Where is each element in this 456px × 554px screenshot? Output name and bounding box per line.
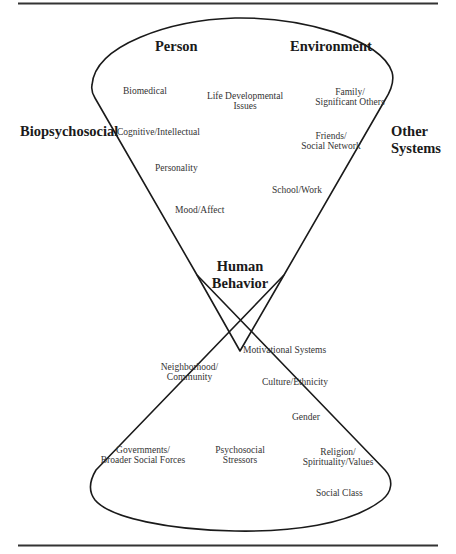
psychosocial-line2: Stressors	[210, 455, 270, 465]
religion-line1: Religion/	[298, 447, 378, 457]
governments-line2: Broader Social Forces	[98, 455, 188, 465]
other-systems-line1: Other	[391, 123, 441, 140]
environment-heading: Environment	[290, 38, 372, 55]
other-systems-label: Other Systems	[391, 123, 441, 157]
human-behavior-line1: Human	[210, 258, 270, 275]
governments-line1: Governments/	[98, 445, 188, 455]
social-class-label: Social Class	[316, 488, 363, 498]
life-developmental-line2: Issues	[195, 101, 295, 111]
person-heading: Person	[155, 38, 198, 55]
mood-affect-label: Mood/Affect	[175, 205, 224, 215]
gender-label: Gender	[292, 412, 320, 422]
friends-line2: Social Network	[286, 141, 376, 151]
psychosocial-line1: Psychosocial	[210, 445, 270, 455]
family-line2: Significant Others	[305, 97, 395, 107]
life-developmental-line1: Life Developmental	[195, 91, 295, 101]
governments-label: Governments/ Broader Social Forces	[98, 445, 188, 465]
other-systems-line2: Systems	[391, 140, 441, 157]
human-behavior-title: Human Behavior	[210, 258, 270, 292]
life-developmental-issues-label: Life Developmental Issues	[195, 91, 295, 111]
outer-boundary-top	[92, 18, 393, 351]
motivational-systems-label: Motivational Systems	[243, 345, 326, 355]
neighborhood-line1: Neighborhood/	[152, 362, 227, 372]
personality-label: Personality	[155, 163, 198, 173]
friends-line1: Friends/	[286, 131, 376, 141]
neighborhood-line2: Community	[152, 372, 227, 382]
family-significant-others-label: Family/ Significant Others	[305, 87, 395, 107]
school-work-label: School/Work	[272, 185, 322, 195]
human-behavior-line2: Behavior	[210, 275, 270, 292]
friends-social-network-label: Friends/ Social Network	[286, 131, 376, 151]
religion-spirituality-values-label: Religion/ Spirituality/Values	[298, 447, 378, 467]
psychosocial-stressors-label: Psychosocial Stressors	[210, 445, 270, 465]
family-line1: Family/	[305, 87, 395, 97]
biomedical-label: Biomedical	[123, 86, 167, 96]
religion-line2: Spirituality/Values	[298, 457, 378, 467]
culture-ethnicity-label: Culture/Ethnicity	[262, 377, 328, 387]
neighborhood-community-label: Neighborhood/ Community	[152, 362, 227, 382]
cognitive-intellectual-label: Cognitive/Intellectual	[117, 127, 200, 137]
biopsychosocial-label: Biopsychosocial	[20, 123, 118, 140]
